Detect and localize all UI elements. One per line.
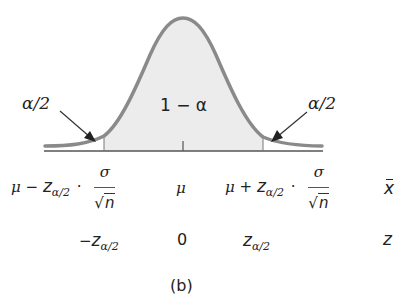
sigma-symbol: σ xyxy=(308,163,329,188)
xbar-axis-name: x xyxy=(384,178,394,198)
xbar-lower-bound: μ − zα/2 · σ √n xyxy=(11,163,115,212)
z-upper-critical: zα/2 xyxy=(243,230,270,253)
shaded-region-1-minus-alpha xyxy=(104,18,263,151)
plus-sign: + xyxy=(240,178,253,196)
n-symbol: n xyxy=(104,193,116,212)
left-tail-text: α/2 xyxy=(22,93,50,113)
root-n: √n xyxy=(308,188,329,212)
right-tail-text: α/2 xyxy=(308,93,336,113)
multiply-dot: · xyxy=(77,178,82,196)
alpha-half-subscript: α/2 xyxy=(101,240,119,253)
alpha-half-subscript: α/2 xyxy=(52,186,70,199)
z-center-zero: 0 xyxy=(177,230,187,249)
z-axis-name: z xyxy=(383,229,392,249)
xbar-center-mu: μ xyxy=(176,179,186,197)
xbar-upper-bound: μ + zα/2 · σ √n xyxy=(225,163,329,212)
multiply-dot: · xyxy=(291,178,296,196)
center-region-text: 1 − α xyxy=(160,95,207,115)
sqrt-icon: √ xyxy=(94,194,104,212)
z-symbol: z xyxy=(92,230,101,250)
left-tail-label: α/2 xyxy=(22,93,50,113)
left-tail-arrow xyxy=(60,111,90,137)
alpha-half-subscript: α/2 xyxy=(266,186,284,199)
z-symbol: z xyxy=(257,176,266,196)
z-symbol: z xyxy=(43,176,52,196)
x-bar-symbol: x xyxy=(384,178,394,198)
root-n: √n xyxy=(94,188,115,212)
minus-sign: − xyxy=(26,178,39,196)
z-symbol: z xyxy=(243,230,252,250)
right-tail-arrow xyxy=(277,112,307,137)
minus-sign: − xyxy=(79,232,92,250)
mu-symbol: μ xyxy=(11,178,21,196)
sigma-symbol: σ xyxy=(94,163,115,188)
n-symbol: n xyxy=(318,193,330,212)
sqrt-icon: √ xyxy=(308,194,318,212)
sigma-over-root-n: σ √n xyxy=(94,163,115,212)
mu-symbol: μ xyxy=(225,178,235,196)
normal-curve-figure xyxy=(0,0,399,301)
panel-label: (b) xyxy=(170,276,193,295)
right-tail-label: α/2 xyxy=(308,93,336,113)
center-region-label: 1 − α xyxy=(160,95,207,115)
z-lower-critical: −zα/2 xyxy=(79,230,119,253)
alpha-half-subscript: α/2 xyxy=(252,240,270,253)
sigma-over-root-n: σ √n xyxy=(308,163,329,212)
